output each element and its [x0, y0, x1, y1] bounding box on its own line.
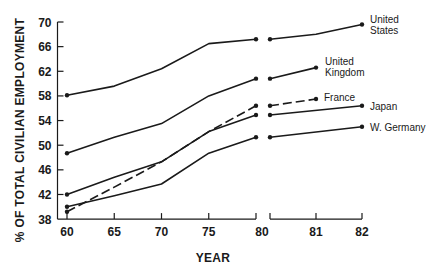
series-lines — [65, 22, 364, 214]
y-tick-label: 66 — [38, 40, 52, 54]
data-point-marker — [360, 125, 364, 129]
series-line-segment — [67, 115, 256, 195]
x-tick-label: 75 — [202, 225, 216, 239]
data-point-marker — [360, 22, 364, 26]
data-point-marker — [65, 210, 69, 214]
y-axis: 384246505458626670 — [38, 16, 63, 227]
data-point-marker — [254, 37, 258, 41]
x-tick-label: 60 — [60, 225, 74, 239]
data-point-marker — [268, 76, 272, 80]
series-line-segment — [270, 106, 362, 115]
series-line-segment — [67, 39, 256, 95]
data-point-marker — [360, 104, 364, 108]
y-tick-label: 46 — [38, 163, 52, 177]
series-label-united-kingdom: UnitedKingdom — [325, 56, 364, 78]
series-label-w-germany: W. Germany — [370, 122, 426, 133]
series-line-segment — [270, 127, 362, 138]
series-line-segment — [67, 106, 256, 212]
data-point-marker — [268, 37, 272, 41]
data-point-marker — [254, 135, 258, 139]
y-axis-title: % OF TOTAL CIVILIAN EMPLOYMENT — [13, 17, 27, 242]
x-tick-label: 81 — [309, 225, 323, 239]
x-tick-label: 70 — [155, 225, 169, 239]
series-line-segment — [270, 99, 316, 106]
data-point-marker — [65, 205, 69, 209]
series-line-segment — [270, 25, 362, 40]
data-point-marker — [65, 192, 69, 196]
y-tick-label: 62 — [38, 65, 52, 79]
data-point-marker — [254, 104, 258, 108]
series-united-states — [65, 22, 364, 97]
x-tick-label: 80 — [255, 225, 269, 239]
series-japan — [65, 104, 364, 197]
series-label-france: France — [324, 92, 356, 103]
series-label-japan: Japan — [370, 101, 397, 112]
data-point-marker — [314, 65, 318, 69]
series-line-segment — [270, 68, 316, 79]
x-tick-label: 65 — [108, 225, 122, 239]
x-axis-title: YEAR — [196, 251, 231, 265]
data-point-marker — [254, 113, 258, 117]
y-tick-label: 54 — [38, 114, 52, 128]
y-tick-label: 58 — [38, 89, 52, 103]
data-point-marker — [65, 151, 69, 155]
data-point-marker — [268, 104, 272, 108]
data-point-marker — [314, 97, 318, 101]
series-labels: UnitedStatesUnitedKingdomFranceJapanW. G… — [324, 14, 426, 133]
series-label-united-states: UnitedStates — [370, 14, 399, 36]
data-point-marker — [268, 135, 272, 139]
y-tick-label: 38 — [38, 213, 52, 227]
employment-line-chart: % OF TOTAL CIVILIAN EMPLOYMENT YEAR 3842… — [0, 0, 429, 273]
series-w-germany — [65, 125, 364, 209]
x-axis: 60657075808182 — [58, 213, 369, 239]
data-point-marker — [254, 76, 258, 80]
y-tick-label: 42 — [38, 188, 52, 202]
data-point-marker — [268, 113, 272, 117]
x-tick-label: 82 — [355, 225, 369, 239]
data-point-marker — [65, 93, 69, 97]
y-tick-label: 50 — [38, 139, 52, 153]
y-tick-label: 70 — [38, 16, 52, 30]
